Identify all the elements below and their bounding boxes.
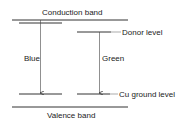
green-transition-label: Green	[102, 54, 124, 63]
valence-band-label: Valence band	[47, 111, 95, 120]
energy-level-diagram: Conduction band Donor level Blue Green C…	[0, 0, 180, 124]
blue-transition-label: Blue	[24, 54, 41, 63]
cu-ground-level-label: Cu ground level	[119, 90, 175, 99]
conduction-band-label: Conduction band	[42, 8, 103, 17]
donor-level-label: Donor level	[122, 28, 163, 37]
